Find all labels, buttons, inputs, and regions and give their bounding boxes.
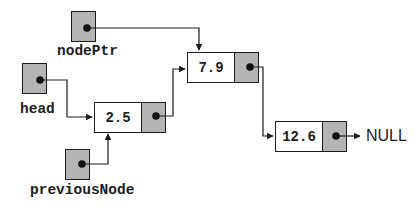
node1-value: 2.5: [94, 102, 142, 133]
list-node-1: 2.5: [94, 102, 166, 133]
nodeptr-box: [71, 11, 96, 42]
linked-list-diagram: nodePtr head previousNode 2.5 7.9 12.6 N…: [0, 0, 417, 210]
head-label: head: [20, 101, 55, 117]
list-node-2: 7.9: [187, 52, 259, 83]
previousnode-box: [65, 149, 90, 180]
diagram-wires: [0, 0, 417, 210]
node2-value: 7.9: [187, 52, 235, 83]
node3-value: 12.6: [275, 121, 323, 152]
head-box: [22, 63, 47, 94]
list-node-3: 12.6: [275, 121, 347, 152]
nodeptr-label: nodePtr: [57, 43, 118, 59]
node2-next-cell: [235, 52, 259, 83]
node3-next-cell: [323, 121, 347, 152]
previousnode-label: previousNode: [30, 182, 134, 198]
null-label: NULL: [366, 127, 407, 145]
node1-next-cell: [142, 102, 166, 133]
